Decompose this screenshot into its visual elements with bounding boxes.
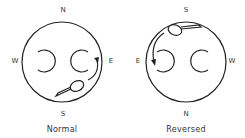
compass-top-label: S: [184, 7, 188, 14]
outer-circle: [22, 22, 102, 102]
right-loop-icon: [191, 50, 208, 72]
right-loop-icon: [71, 50, 88, 72]
normal-diagram: [22, 22, 102, 102]
caption-reversed: Reversed: [166, 126, 206, 134]
left-loop-icon: [157, 50, 174, 72]
arrowhead-icon: [94, 57, 99, 63]
organism-icon: [167, 23, 201, 37]
compass-right-label: W: [229, 58, 236, 65]
compass-top-label: N: [60, 7, 65, 14]
orientation-diagrams: [0, 0, 245, 138]
compass-left-label: W: [12, 58, 19, 65]
organism-icon: [56, 79, 85, 96]
left-loop-icon: [38, 50, 55, 72]
arrowhead-icon: [151, 59, 156, 66]
outer-circle: [146, 22, 226, 102]
reversed-diagram: [146, 22, 226, 102]
compass-bottom-label: S: [61, 111, 65, 118]
path-arrow: [88, 60, 98, 80]
compass-left-label: E: [136, 58, 140, 65]
caption-normal: Normal: [47, 126, 78, 134]
compass-right-label: E: [109, 58, 113, 65]
compass-bottom-label: N: [183, 111, 188, 118]
